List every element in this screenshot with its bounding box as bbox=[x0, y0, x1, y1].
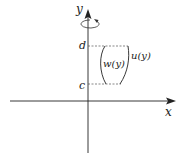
lower-bound-label: c bbox=[79, 80, 85, 91]
solid-of-revolution-diagram: y x d c w(y) u(y) bbox=[0, 0, 183, 157]
diagram-graphics bbox=[0, 0, 183, 157]
outer-curve-label: u(y) bbox=[131, 51, 151, 61]
x-axis-label: x bbox=[165, 106, 172, 118]
inner-curve-label: w(y) bbox=[103, 59, 125, 69]
rotation-arrow-icon bbox=[81, 19, 99, 28]
upper-bound-label: d bbox=[79, 40, 86, 51]
y-axis-label: y bbox=[76, 3, 83, 15]
